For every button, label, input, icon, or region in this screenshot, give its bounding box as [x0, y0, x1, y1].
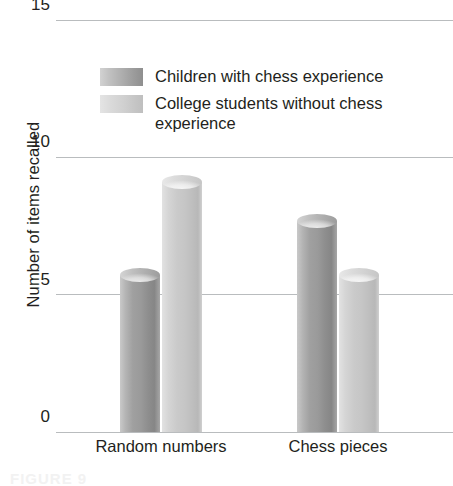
bar-children-1: [297, 214, 337, 432]
bar-cap-highlight: [297, 214, 337, 228]
gridline-10: [56, 157, 453, 158]
legend-item-0: Children with chess experience: [100, 66, 440, 86]
bar-body: [120, 275, 160, 432]
bar-cap-highlight: [162, 175, 202, 189]
x-axis-label-1: Chess pieces: [228, 437, 448, 456]
x-axis-labels: Random numbersChess pieces: [56, 437, 453, 461]
legend-label-college: College students without chess experienc…: [155, 93, 440, 133]
y-tick-label-5: 5: [16, 271, 50, 288]
y-tick-label-15: 15: [16, 0, 50, 13]
legend-swatch-college: [100, 95, 143, 113]
y-tick-label-0: 0: [16, 408, 50, 425]
y-axis-title: Number of items recalled: [24, 90, 43, 340]
y-tick-label-10: 10: [16, 133, 50, 150]
bar-college-0: [162, 175, 202, 432]
legend-label-children: Children with chess experience: [155, 66, 383, 86]
figure-caption: FIGURE 9: [10, 470, 87, 486]
bar-body: [162, 182, 202, 432]
bar-body: [339, 275, 379, 432]
gridline-5: [56, 294, 453, 295]
gridline-0: [56, 432, 453, 433]
gridline-15: [56, 20, 453, 21]
chart-legend: Children with chess experience College s…: [100, 66, 440, 140]
bar-college-1: [339, 268, 379, 432]
bar-body: [297, 221, 337, 432]
legend-item-1: College students without chess experienc…: [100, 93, 440, 133]
legend-swatch-children: [100, 68, 143, 86]
bar-chart-figure: Number of items recalled 051015 Children…: [0, 0, 453, 486]
bar-children-0: [120, 268, 160, 432]
